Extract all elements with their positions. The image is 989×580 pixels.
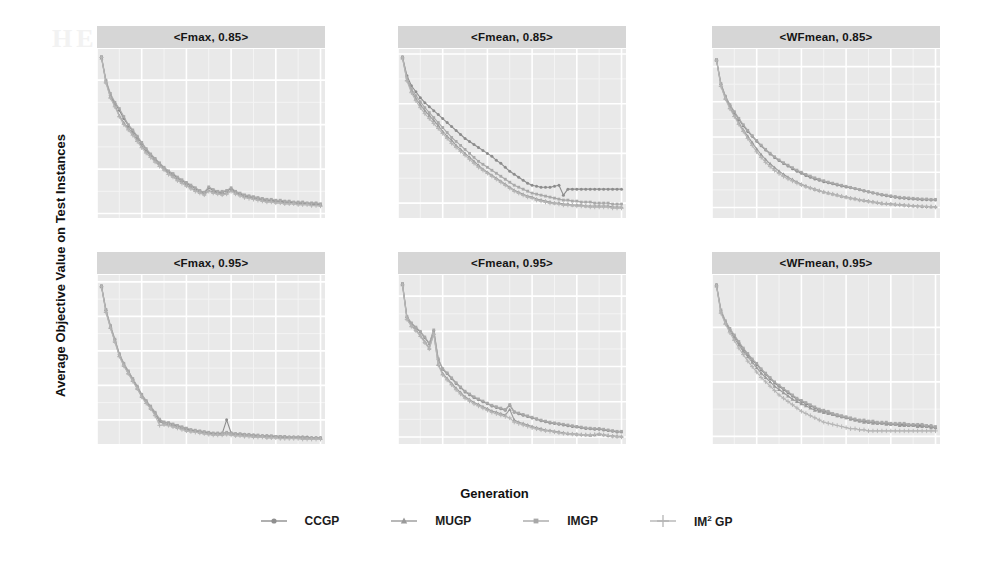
panel-fmax-085: <Fmax, 0.85>120013001400150001020304050 bbox=[97, 26, 325, 218]
panel-title-fmax-085: <Fmax, 0.85> bbox=[97, 26, 325, 48]
plot-area-wfmean-095: 11001150120001020304050 bbox=[712, 275, 940, 444]
figure-root: HEX Average Objective Value on Test Inst… bbox=[0, 0, 989, 580]
series-imgp bbox=[401, 282, 623, 433]
plot-svg-fmax-095 bbox=[97, 275, 325, 444]
panel-wfmean-095: <WFmean, 0.95>11001150120001020304050 bbox=[712, 252, 940, 444]
legend: CCGPMUGPIMGPIM2 GP bbox=[0, 512, 989, 530]
legend-item-imgp[interactable]: IMGP bbox=[519, 512, 646, 530]
series-mugp bbox=[100, 285, 323, 440]
legend-marker-filled-triangle-line-icon bbox=[387, 512, 421, 530]
series-mugp bbox=[715, 58, 938, 208]
plot-svg-fmean-085 bbox=[398, 49, 626, 218]
series-mugp bbox=[401, 283, 624, 438]
y-axis-label: Average Objective Value on Test Instance… bbox=[53, 66, 68, 466]
x-axis-label: Generation bbox=[0, 486, 989, 501]
plot-svg-wfmean-085 bbox=[712, 49, 940, 218]
series-imgp bbox=[715, 58, 937, 201]
panel-fmean-085: <Fmean, 0.85>38539039540001020304050 bbox=[398, 26, 626, 218]
series-mugp bbox=[715, 284, 938, 429]
panel-title-wfmean-085: <WFmean, 0.85> bbox=[712, 26, 940, 48]
plot-svg-wfmean-095 bbox=[712, 275, 940, 444]
series-imgp bbox=[100, 284, 322, 439]
legend-item-im2-gp[interactable]: IM2 GP bbox=[646, 512, 732, 530]
panel-fmean-095: <Fmean, 0.95>55056057058059001020304050 bbox=[398, 252, 626, 444]
plot-svg-fmean-095 bbox=[398, 275, 626, 444]
series-im2-gp bbox=[714, 58, 937, 209]
panel-title-fmean-085: <Fmean, 0.85> bbox=[398, 26, 626, 48]
plot-area-wfmean-085: 83084085086087001020304050 bbox=[712, 49, 940, 218]
legend-label: CCGP bbox=[305, 514, 340, 528]
panel-title-fmax-095: <Fmax, 0.95> bbox=[97, 252, 325, 274]
series-ccgp bbox=[100, 285, 322, 440]
legend-item-mugp[interactable]: MUGP bbox=[387, 512, 519, 530]
panel-title-wfmean-095: <WFmean, 0.95> bbox=[712, 252, 940, 274]
panel-title-fmean-095: <Fmean, 0.95> bbox=[398, 252, 626, 274]
legend-label: IM2 GP bbox=[694, 514, 732, 529]
plot-area-fmax-085: 120013001400150001020304050 bbox=[97, 49, 325, 218]
legend-marker-filled-circle-line-icon bbox=[257, 512, 291, 530]
panel-wfmean-085: <WFmean, 0.85>83084085086087001020304050 bbox=[712, 26, 940, 218]
plot-area-fmean-095: 55056057058059001020304050 bbox=[398, 275, 626, 444]
plot-area-fmean-085: 38539039540001020304050 bbox=[398, 49, 626, 218]
plot-area-fmax-095: 2000210022002300240001020304050 bbox=[97, 275, 325, 444]
legend-label: IMGP bbox=[567, 514, 598, 528]
legend-label: MUGP bbox=[435, 514, 471, 528]
legend-item-ccgp[interactable]: CCGP bbox=[257, 512, 388, 530]
series-im2-gp bbox=[99, 285, 322, 442]
series-ccgp bbox=[401, 282, 623, 433]
legend-marker-filled-square-line-icon bbox=[519, 512, 553, 530]
plot-svg-fmax-085 bbox=[97, 49, 325, 218]
series-ccgp bbox=[401, 55, 623, 196]
series-imgp bbox=[401, 56, 623, 206]
legend-marker-plus-line-icon bbox=[646, 512, 680, 530]
panel-fmax-095: <Fmax, 0.95>2000210022002300240001020304… bbox=[97, 252, 325, 444]
series-imgp bbox=[100, 55, 322, 205]
